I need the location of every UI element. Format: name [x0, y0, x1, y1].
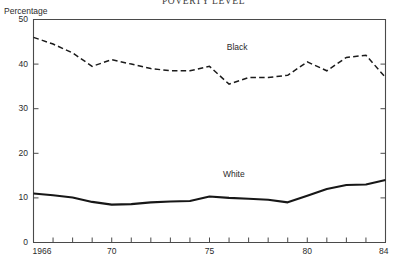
x-tick-label: 75	[205, 246, 214, 256]
y-tick-label: 50	[6, 14, 28, 24]
series-line-black	[34, 37, 386, 84]
y-tick-label: 40	[6, 59, 28, 69]
series-label-white: White	[223, 169, 245, 179]
x-tick-marks	[34, 238, 386, 243]
series-line-white	[34, 180, 386, 205]
y-tick-label: 10	[6, 192, 28, 202]
y-tick-marks	[34, 20, 39, 243]
y-tick-marks-right	[381, 64, 386, 198]
y-tick-label: 0	[6, 237, 28, 247]
plot-canvas	[0, 0, 407, 270]
x-tick-label: 84	[379, 246, 388, 256]
axes-group	[33, 19, 386, 243]
y-tick-label: 20	[6, 148, 28, 158]
y-tick-label: 30	[6, 103, 28, 113]
poverty-level-chart: POVERTY LEVEL Percentage 01020304050 196…	[0, 0, 407, 270]
x-tick-label: 1966	[33, 246, 52, 256]
x-tick-label: 80	[303, 246, 312, 256]
series-label-black: Black	[227, 42, 248, 52]
x-tick-label: 70	[107, 246, 116, 256]
